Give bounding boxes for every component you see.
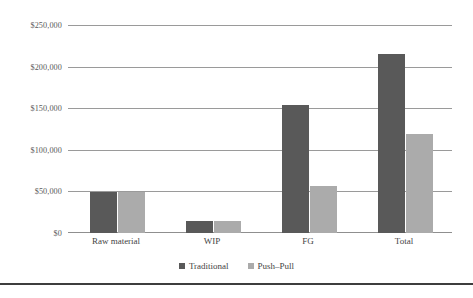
y-axis-tick-labels: $250,000 $200,000 $150,000 $100,000 $50,…	[0, 25, 62, 233]
y-tick-250000: $250,000	[30, 21, 62, 30]
y-tick-50000: $50,000	[35, 187, 62, 196]
legend-label-pushpull: Push–Pull	[258, 261, 295, 271]
bottom-divider-rule	[0, 283, 473, 285]
legend-swatch-icon-pushpull	[248, 263, 254, 269]
bar-group-total	[356, 25, 452, 233]
bar-group-fg	[260, 25, 356, 233]
x-tick-total: Total	[395, 236, 413, 246]
bar-traditional-total[interactable]	[378, 54, 405, 233]
bar-traditional-wip[interactable]	[186, 221, 213, 233]
bar-traditional-raw-material[interactable]	[90, 192, 117, 233]
y-tick-100000: $100,000	[30, 145, 62, 154]
bar-pushpull-fg[interactable]	[310, 186, 337, 233]
x-tick-wip: WIP	[204, 236, 221, 246]
bar-pushpull-wip[interactable]	[214, 221, 241, 233]
bars-layer	[68, 25, 452, 233]
y-tick-0: $0	[54, 229, 62, 238]
bar-pushpull-total[interactable]	[406, 134, 433, 233]
bar-chart-figure: $250,000 $200,000 $150,000 $100,000 $50,…	[0, 0, 473, 298]
x-tick-fg: FG	[302, 236, 314, 246]
legend-swatch-icon-traditional	[179, 263, 185, 269]
legend-label-traditional: Traditional	[189, 261, 229, 271]
chart-legend: Traditional Push–Pull	[0, 261, 473, 271]
x-tick-raw-material: Raw material	[92, 236, 140, 246]
y-tick-200000: $200,000	[30, 62, 62, 71]
bar-group-raw-material	[68, 25, 164, 233]
bar-pushpull-raw-material[interactable]	[118, 192, 145, 233]
bar-group-wip	[164, 25, 260, 233]
legend-entry-traditional[interactable]: Traditional	[179, 261, 229, 271]
x-axis-tick-labels: Raw material WIP FG Total	[68, 236, 452, 252]
y-tick-150000: $150,000	[30, 104, 62, 113]
bar-traditional-fg[interactable]	[282, 105, 309, 233]
legend-entry-pushpull[interactable]: Push–Pull	[248, 261, 295, 271]
